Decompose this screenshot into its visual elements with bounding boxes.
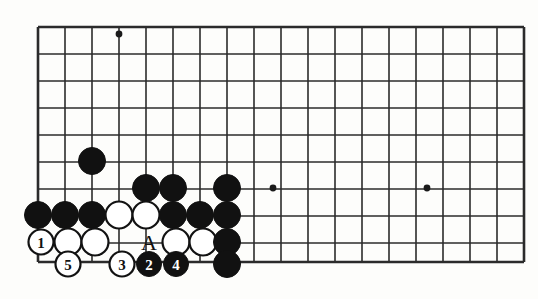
move-number-label: 4 <box>172 257 180 273</box>
stone-black <box>187 202 214 229</box>
black-stone <box>25 202 52 229</box>
stone-black <box>160 175 187 202</box>
go-board-svg: 15324 A <box>0 0 538 299</box>
numbered-stone: 1 <box>29 230 54 255</box>
black-stone <box>160 175 187 202</box>
numbered-stone: 5 <box>56 252 81 277</box>
white-stone <box>106 202 133 229</box>
stone-black <box>52 202 79 229</box>
stone-white <box>133 202 160 229</box>
black-stone <box>52 202 79 229</box>
black-stone <box>160 202 187 229</box>
move-number-label: 3 <box>118 257 126 273</box>
black-stone <box>79 148 106 175</box>
hoshi-point <box>116 31 123 38</box>
stone-black <box>79 202 106 229</box>
white-stone <box>82 229 109 256</box>
numbered-stone: 4 <box>164 252 189 277</box>
black-stone <box>79 202 106 229</box>
hoshi-point <box>424 185 431 192</box>
numbered-stone: 2 <box>137 252 162 277</box>
stone-black <box>25 202 52 229</box>
stone-black <box>214 175 241 202</box>
move-number-label: 5 <box>64 257 72 273</box>
black-stone <box>214 175 241 202</box>
stone-white <box>82 229 109 256</box>
white-stone <box>133 202 160 229</box>
black-stone <box>214 251 241 278</box>
stone-white <box>106 202 133 229</box>
black-stone <box>214 202 241 229</box>
move-number-label: 2 <box>145 257 153 273</box>
board-point-label: A <box>141 230 157 255</box>
black-stone <box>133 175 160 202</box>
stone-black <box>79 148 106 175</box>
stone-black <box>214 251 241 278</box>
stone-black <box>214 202 241 229</box>
stone-black <box>133 175 160 202</box>
white-stone <box>190 229 217 256</box>
stone-white <box>190 229 217 256</box>
point-labels-layer: A <box>141 230 157 255</box>
move-number-label: 1 <box>37 235 45 251</box>
stones-layer: 15324 <box>25 148 241 278</box>
hoshi-point <box>270 185 277 192</box>
stone-black <box>160 202 187 229</box>
numbered-stone: 3 <box>110 252 135 277</box>
go-board-diagram: 15324 A <box>0 0 538 299</box>
black-stone <box>187 202 214 229</box>
